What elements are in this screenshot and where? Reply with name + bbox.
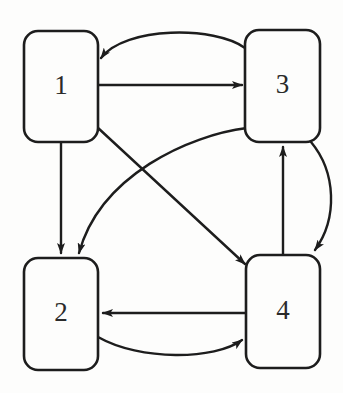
edge-2-to-4 [98,337,242,355]
node-label-3: 3 [276,69,290,99]
graph-diagram: 1 3 2 4 [0,0,343,393]
graph-node-1[interactable]: 1 [24,31,98,142]
edge-1-to-4 [97,127,245,264]
edge-3-to-4 [311,142,331,250]
graph-node-2[interactable]: 2 [24,258,98,370]
graph-node-3[interactable]: 3 [245,30,320,142]
graph-canvas: 1 3 2 4 [0,0,343,393]
edge-3-to-1 [101,33,245,58]
edge-3-to-2 [79,128,247,253]
node-label-2: 2 [54,297,68,327]
graph-node-4[interactable]: 4 [246,255,320,368]
node-label-1: 1 [54,70,68,100]
nodes-layer: 1 3 2 4 [24,30,320,370]
node-label-4: 4 [276,295,290,325]
